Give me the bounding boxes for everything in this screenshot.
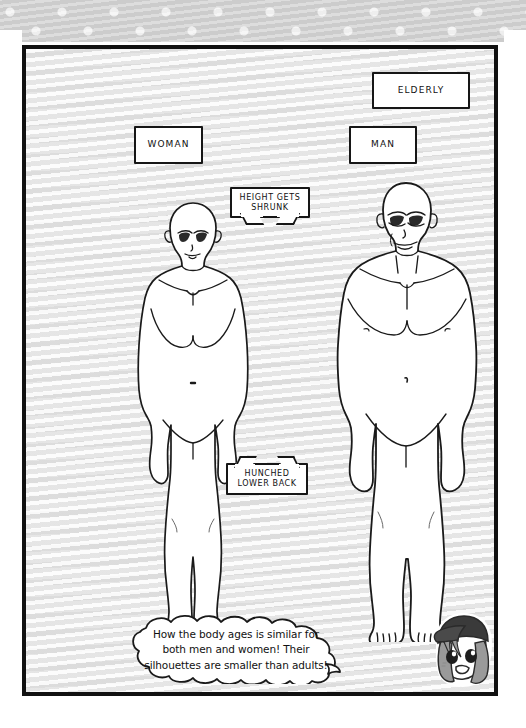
caption-line-2: both men and women! Their <box>162 642 309 657</box>
manga-panel: ELDERLY WOMAN MAN HEIGHT GETS SHRUNK HUN… <box>22 45 498 696</box>
chibi-mascot-avatar <box>424 611 498 689</box>
callout-tail-up-left-cap <box>235 464 255 468</box>
elderly-man-figure <box>326 177 486 642</box>
callout-hunched-lower-back: HUNCHED LOWER BACK <box>226 463 308 495</box>
label-man-text: MAN <box>371 139 395 150</box>
callout-hunched-line2: LOWER BACK <box>237 479 296 489</box>
callout-height-line1: HEIGHT GETS <box>240 193 301 203</box>
caption-text: How the body ages is similar for both me… <box>132 624 340 676</box>
band-mask-right <box>504 30 526 42</box>
label-man: MAN <box>349 126 417 164</box>
callout-height-gets-shrunk: HEIGHT GETS SHRUNK <box>230 187 310 218</box>
label-woman: WOMAN <box>134 126 203 164</box>
callout-tail-right-cap <box>277 213 299 217</box>
caption-cloud: How the body ages is similar for both me… <box>116 614 356 684</box>
label-elderly: ELDERLY <box>372 72 470 109</box>
label-elderly-text: ELDERLY <box>398 85 445 96</box>
band-texture-overlay <box>0 0 526 42</box>
callout-hunched-line1: HUNCHED <box>237 469 296 479</box>
callout-height-line2: SHRUNK <box>240 203 301 213</box>
band-mask-left <box>0 30 22 42</box>
callout-tail-up-right-cap <box>279 464 299 468</box>
callout-tail-left-cap <box>241 213 263 217</box>
caption-line-1: How the body ages is similar for <box>153 627 319 642</box>
caption-line-3: silhouettes are smaller than adults! <box>144 658 327 673</box>
polka-dot-band <box>0 0 526 42</box>
elderly-woman-figure <box>123 197 263 642</box>
label-woman-text: WOMAN <box>147 139 189 150</box>
